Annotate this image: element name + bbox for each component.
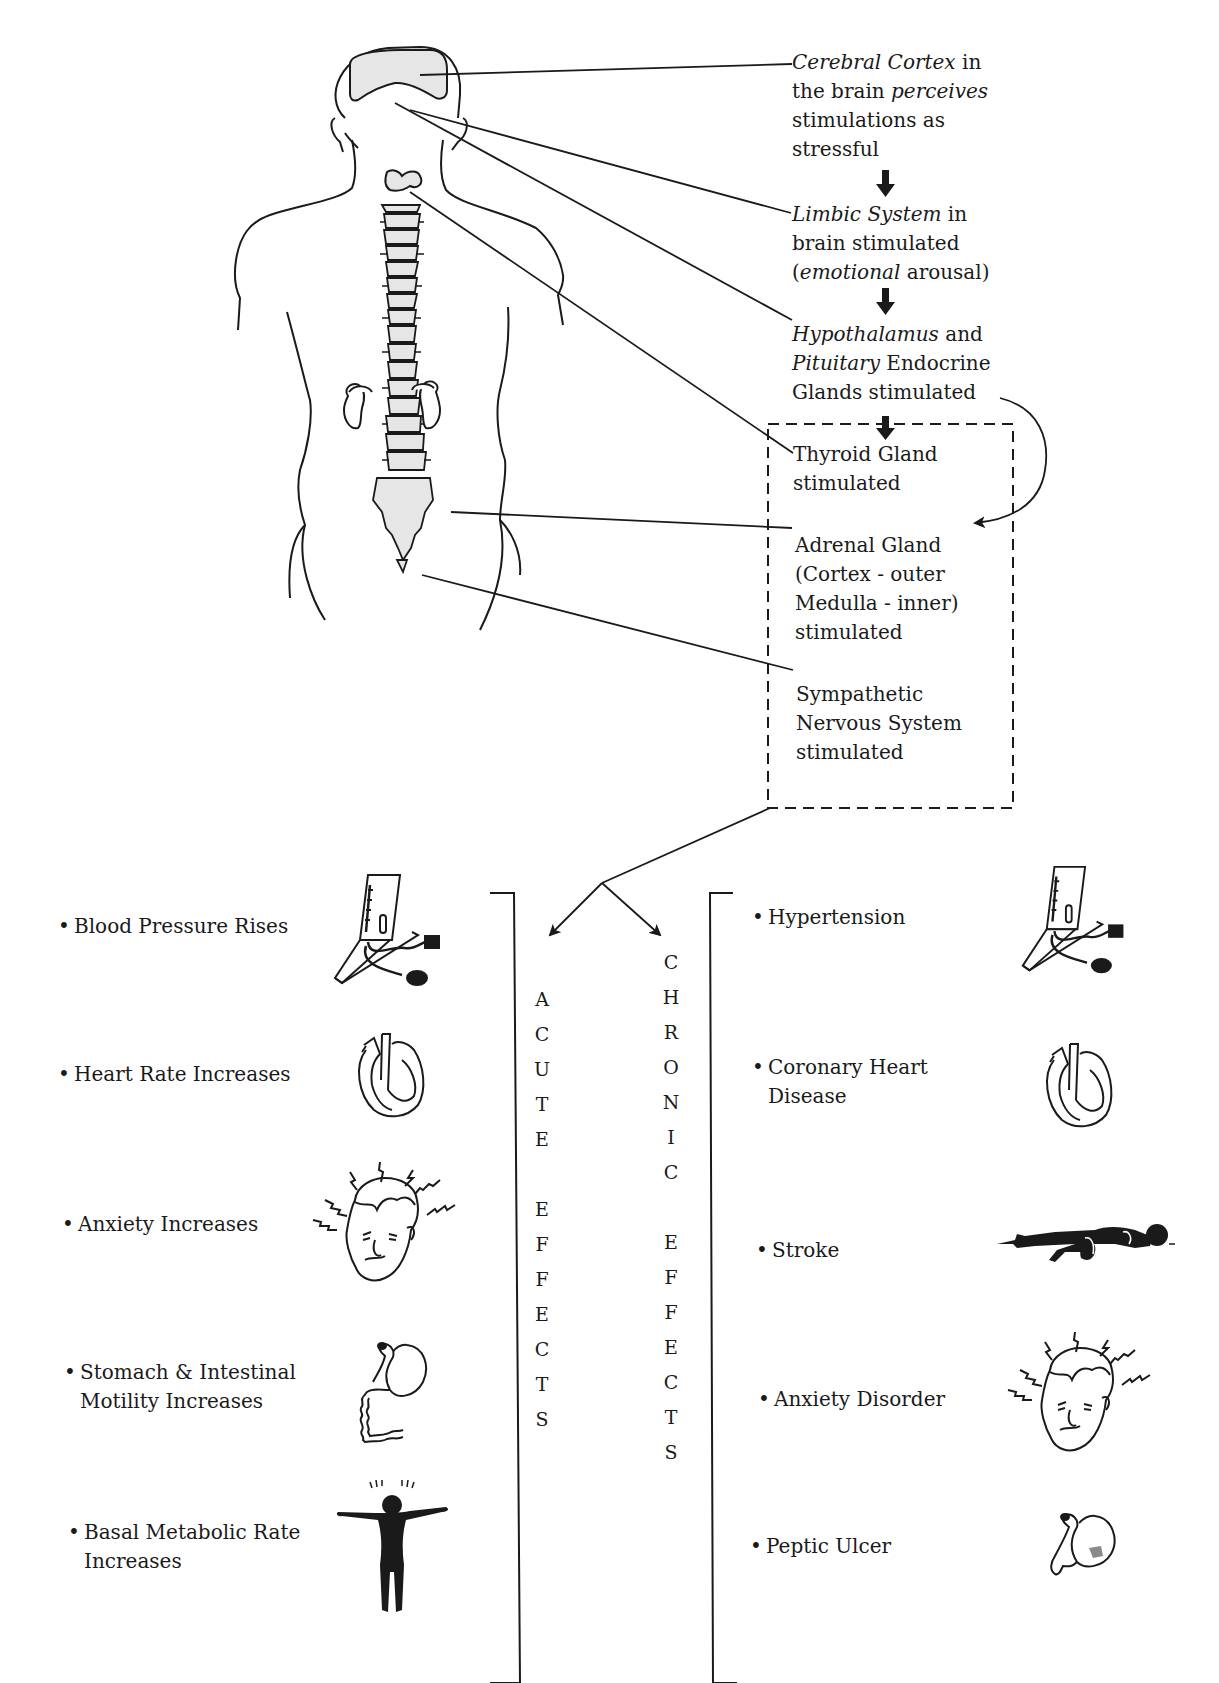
chronic-effect-item: •Coronary HeartDisease	[752, 1053, 928, 1111]
letter: E	[531, 1192, 553, 1227]
bullet: •	[758, 1385, 774, 1414]
label-sympathetic: Sympathetic Nervous System stimulated	[796, 680, 962, 767]
bullet: •	[64, 1358, 80, 1387]
label-cerebral-cortex: Cerebral Cortex in the brain perceives s…	[792, 48, 988, 164]
bullet: •	[58, 1060, 74, 1089]
letter: T	[531, 1087, 553, 1122]
heart-icon	[1040, 1040, 1115, 1130]
effect-text: Anxiety Increases	[78, 1210, 258, 1239]
text: in	[942, 202, 968, 226]
chronic-effect-item: •Stroke	[756, 1236, 839, 1265]
text: Nervous System	[796, 709, 962, 738]
letter: S	[660, 1435, 682, 1470]
text: (	[792, 260, 800, 284]
effect-text: Motility Increases	[80, 1389, 263, 1413]
text: Medulla - inner)	[795, 589, 959, 618]
acute-effect-item: •Heart Rate Increases	[58, 1060, 291, 1089]
text: Sympathetic	[796, 680, 962, 709]
chronic-effect-item: •Hypertension	[752, 903, 905, 932]
bullet: •	[750, 1532, 766, 1561]
label-limbic-system: Limbic System in brain stimulated (emoti…	[792, 200, 990, 287]
letter: F	[531, 1227, 553, 1262]
acute-effect-item: •Stomach & IntestinalMotility Increases	[64, 1358, 296, 1416]
blood-pressure-monitor-icon	[1018, 862, 1133, 982]
text: stimulated	[796, 738, 962, 767]
text: the brain	[792, 79, 891, 103]
letter: O	[660, 1050, 682, 1085]
letter: E	[660, 1225, 682, 1260]
letter: N	[660, 1085, 682, 1120]
bullet: •	[756, 1236, 772, 1265]
text: Adrenal Gland	[795, 531, 959, 560]
stomach-ulcer-icon	[1045, 1512, 1125, 1587]
term-pituitary: Pituitary	[792, 351, 880, 375]
anxious-head-icon	[305, 1160, 470, 1295]
text: in	[956, 50, 982, 74]
bullet: •	[68, 1518, 84, 1547]
text: (Cortex - outer	[795, 560, 959, 589]
letter: C	[531, 1332, 553, 1367]
term-cerebral-cortex: Cerebral Cortex	[792, 50, 956, 74]
effect-text: Stroke	[772, 1236, 839, 1265]
bullet: •	[58, 912, 74, 941]
anxious-head-icon	[1000, 1330, 1165, 1465]
label-thyroid: Thyroid Gland stimulated	[793, 440, 938, 498]
chronic-bracket	[710, 893, 737, 1683]
text: Thyroid Gland	[793, 440, 938, 469]
letter: C	[531, 1017, 553, 1052]
letter: C	[660, 945, 682, 980]
effect-text: Anxiety Disorder	[774, 1385, 945, 1414]
text: brain stimulated	[792, 229, 990, 258]
text: stimulated	[793, 469, 938, 498]
stomach-intestine-icon	[355, 1342, 440, 1447]
letter: A	[531, 982, 553, 1017]
arrow-to-acute	[550, 883, 602, 935]
letter: E	[660, 1330, 682, 1365]
emphasis: emotional	[800, 260, 901, 284]
acute-effect-item: •Basal Metabolic RateIncreases	[68, 1518, 300, 1576]
effect-text: Hypertension	[768, 903, 905, 932]
letter: E	[531, 1122, 553, 1157]
chronic-effect-item: •Anxiety Disorder	[758, 1385, 945, 1414]
letter: F	[531, 1262, 553, 1297]
letter: H	[660, 980, 682, 1015]
effect-text: Stomach & Intestinal	[80, 1360, 296, 1384]
letter: S	[531, 1402, 553, 1437]
acute-effect-item: •Anxiety Increases	[62, 1210, 258, 1239]
text: arousal)	[900, 260, 989, 284]
acute-effects-heading: A C U T E E F F E C T S	[531, 982, 553, 1437]
text: Endocrine	[880, 351, 991, 375]
letter-space	[660, 1190, 682, 1225]
split-connector	[602, 808, 770, 883]
effect-text: Increases	[84, 1549, 182, 1573]
bullet: •	[62, 1210, 78, 1239]
letter: T	[660, 1400, 682, 1435]
arrow-to-chronic	[602, 883, 660, 935]
thyroid-shape	[385, 170, 421, 190]
term-limbic-system: Limbic System	[792, 202, 942, 226]
curved-arrow	[975, 398, 1046, 523]
acute-bracket	[490, 893, 520, 1683]
chronic-effects-heading: C H R O N I C E F F E C T S	[660, 945, 682, 1470]
effect-text: Peptic Ulcer	[766, 1532, 891, 1561]
letter-space	[531, 1157, 553, 1192]
bullet: •	[752, 1053, 768, 1082]
text: stimulated	[795, 618, 959, 647]
emphasis: perceives	[891, 79, 988, 103]
letter: C	[660, 1365, 682, 1400]
letter: T	[531, 1367, 553, 1402]
letter: U	[531, 1052, 553, 1087]
bullet: •	[752, 903, 768, 932]
text: Glands stimulated	[792, 378, 991, 407]
energetic-person-icon	[330, 1480, 460, 1620]
label-hypothalamus-pituitary: Hypothalamus and Pituitary Endocrine Gla…	[792, 320, 991, 407]
letter: F	[660, 1295, 682, 1330]
blood-pressure-monitor-icon	[330, 870, 450, 995]
chronic-effect-item: •Peptic Ulcer	[750, 1532, 891, 1561]
effect-text: Heart Rate Increases	[74, 1060, 291, 1089]
effect-text: Basal Metabolic Rate	[84, 1520, 300, 1544]
label-adrenal: Adrenal Gland (Cortex - outer Medulla - …	[795, 531, 959, 647]
letter: I	[660, 1120, 682, 1155]
term-hypothalamus: Hypothalamus	[792, 322, 939, 346]
effect-text: Disease	[768, 1084, 847, 1108]
